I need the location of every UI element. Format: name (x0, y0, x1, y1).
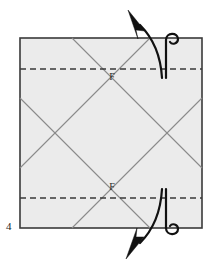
step-number-label: 4 (6, 220, 12, 232)
point-label-upper-f: F (109, 71, 115, 82)
origami-diagram-canvas: F F 4 (0, 0, 216, 269)
point-label-lower-f: F (109, 181, 115, 192)
paper-square (20, 38, 202, 228)
origami-diagram-figure: F F 4 (0, 0, 216, 269)
fold-down-arrow-head (126, 228, 144, 259)
fold-up-arrow-head (128, 10, 145, 39)
